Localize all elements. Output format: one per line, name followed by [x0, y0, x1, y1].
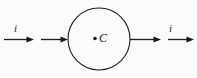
figure-container: i i C	[0, 0, 197, 78]
current-label-left: i	[14, 23, 17, 34]
right-inner-arrow	[130, 37, 161, 43]
left-outer-arrow	[4, 37, 34, 43]
right-outer-arrow	[168, 37, 194, 43]
center-point-dot	[93, 37, 97, 41]
current-label-right: i	[169, 23, 172, 34]
center-label-c: C	[99, 32, 107, 44]
left-inner-arrow	[41, 37, 68, 43]
